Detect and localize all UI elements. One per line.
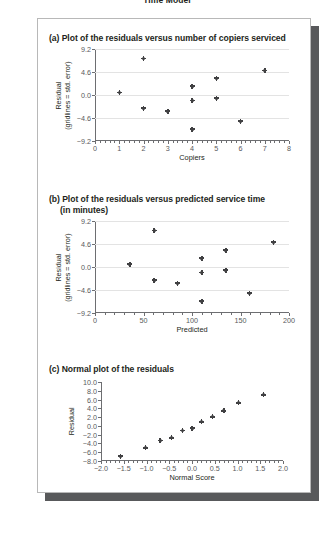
x-tick-minor bbox=[207, 141, 208, 143]
y-tick bbox=[98, 382, 101, 383]
x-tick-minor bbox=[245, 141, 246, 143]
x-tick-minor bbox=[134, 313, 135, 315]
panel-b: (b) Plot of the residuals versus predict… bbox=[49, 194, 301, 215]
gridline bbox=[95, 72, 289, 73]
panel-b-y-axis-title-line2: (gridlines = std. error) bbox=[62, 233, 71, 302]
x-tick-minor bbox=[231, 141, 232, 143]
panel-a-x-axis-title: Copiers bbox=[179, 153, 204, 162]
x-tick-label: 50 bbox=[140, 316, 148, 325]
data-point bbox=[190, 127, 195, 132]
x-tick-minor bbox=[182, 313, 183, 315]
x-tick-minor bbox=[226, 141, 227, 143]
y-tick-label: 10.0 bbox=[83, 378, 97, 387]
x-tick-minor bbox=[260, 141, 261, 143]
x-tick-label: 1 bbox=[117, 144, 121, 153]
panel-b-title: (b) Plot of the residuals versus predict… bbox=[49, 194, 301, 215]
data-point bbox=[262, 68, 267, 73]
y-tick bbox=[92, 267, 95, 268]
x-tick-minor bbox=[139, 141, 140, 143]
data-point bbox=[210, 414, 215, 419]
panel-c-plot-frame bbox=[101, 382, 283, 461]
x-tick-minor bbox=[163, 141, 164, 143]
x-tick-minor bbox=[110, 461, 111, 463]
x-tick-label: 1.5 bbox=[255, 464, 265, 473]
x-tick-minor bbox=[201, 461, 202, 463]
x-tick-minor bbox=[202, 313, 203, 315]
data-point bbox=[199, 270, 204, 275]
y-tick-label: 4.0 bbox=[87, 404, 97, 413]
x-tick-minor bbox=[158, 141, 159, 143]
card-shadow-bottom bbox=[45, 493, 319, 501]
y-tick-label: 2.0 bbox=[87, 413, 97, 422]
card-shadow-right bbox=[311, 26, 319, 501]
x-tick-minor bbox=[211, 313, 212, 315]
y-tick bbox=[98, 408, 101, 409]
x-tick-minor bbox=[182, 141, 183, 143]
x-tick-minor bbox=[174, 461, 175, 463]
y-tick-label: 9.2 bbox=[81, 45, 91, 54]
data-point bbox=[199, 299, 204, 304]
y-tick bbox=[98, 443, 101, 444]
x-tick-label: 3 bbox=[166, 144, 170, 153]
x-tick-minor bbox=[269, 461, 270, 463]
data-point bbox=[152, 278, 157, 283]
y-tick bbox=[92, 244, 95, 245]
data-point bbox=[261, 392, 266, 397]
data-point bbox=[190, 84, 195, 89]
y-tick-label: 8.0 bbox=[87, 386, 97, 395]
x-tick-minor bbox=[105, 141, 106, 143]
data-point bbox=[117, 90, 122, 95]
y-tick bbox=[92, 95, 95, 96]
x-tick-minor bbox=[165, 461, 166, 463]
x-tick-label: −1.0 bbox=[139, 464, 153, 473]
x-tick-label: 0 bbox=[93, 144, 97, 153]
x-tick-label: 4 bbox=[190, 144, 194, 153]
x-tick-minor bbox=[224, 461, 225, 463]
gridline bbox=[95, 267, 289, 268]
panel-b-title-text: (b) Plot of the residuals versus predict… bbox=[49, 194, 265, 204]
panel-a-plot: Residual (gridlines = std. error) Copier… bbox=[95, 49, 289, 141]
x-tick-minor bbox=[250, 313, 251, 315]
x-tick-minor bbox=[160, 461, 161, 463]
y-tick bbox=[98, 426, 101, 427]
x-tick-minor bbox=[187, 461, 188, 463]
x-tick-label: 1.0 bbox=[233, 464, 243, 473]
data-point bbox=[152, 228, 157, 233]
y-tick bbox=[98, 435, 101, 436]
x-tick-minor bbox=[124, 313, 125, 315]
x-tick-minor bbox=[153, 313, 154, 315]
data-point bbox=[214, 96, 219, 101]
y-tick bbox=[92, 221, 95, 222]
x-tick-minor bbox=[256, 461, 257, 463]
x-tick-label: 0.0 bbox=[187, 464, 197, 473]
x-tick-minor bbox=[163, 313, 164, 315]
x-tick-minor bbox=[274, 141, 275, 143]
x-tick-minor bbox=[114, 141, 115, 143]
gridline bbox=[95, 118, 289, 119]
x-tick-minor bbox=[236, 141, 237, 143]
data-point bbox=[118, 454, 123, 459]
y-tick-label: −4.0 bbox=[83, 439, 97, 448]
x-tick-label: 0 bbox=[93, 316, 97, 325]
x-tick-minor bbox=[251, 461, 252, 463]
data-point bbox=[214, 76, 219, 81]
panel-c-y-axis-title: Residual bbox=[67, 407, 76, 435]
data-point bbox=[238, 119, 243, 124]
x-tick-minor bbox=[124, 141, 125, 143]
x-tick-minor bbox=[242, 461, 243, 463]
panel-a-title: (a) Plot of the residuals versus number … bbox=[49, 33, 301, 44]
y-tick-label: 9.2 bbox=[81, 217, 91, 226]
data-point bbox=[141, 56, 146, 61]
x-tick-minor bbox=[128, 461, 129, 463]
gridline bbox=[95, 221, 289, 222]
x-tick-minor bbox=[231, 313, 232, 315]
x-tick-minor bbox=[153, 141, 154, 143]
x-tick-minor bbox=[221, 141, 222, 143]
x-tick-minor bbox=[151, 461, 152, 463]
y-tick-label: −9.2 bbox=[77, 309, 91, 318]
data-point bbox=[127, 262, 132, 267]
panel-c-plot: Residual Normal Score −8.0−6.0−4.0−2.00.… bbox=[101, 382, 283, 461]
x-tick-label: −0.5 bbox=[162, 464, 176, 473]
y-tick-label: 6.0 bbox=[87, 395, 97, 404]
panel-b-y-axis-title: Residual (gridlines = std. error) bbox=[55, 233, 72, 302]
